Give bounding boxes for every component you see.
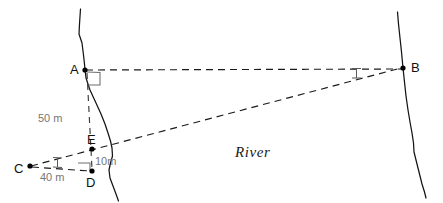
vertex-dot-D [89,168,94,173]
point-label-D: D [86,175,95,190]
river-caption: River [234,144,270,160]
vertex-dot-C [27,163,32,168]
vertex-dot-E [89,146,94,151]
segment-A-B [86,69,401,70]
angle-tick-at-B [352,69,361,79]
point-label-B: B [411,60,420,75]
riverbanks [79,9,426,201]
dimension-label-ED: 10m [95,155,116,167]
right-angle-at-A [87,72,100,85]
left-bank-path [79,9,119,201]
angle-tick-at-C [53,158,62,168]
river-survey-figure: A B C D E 50 m 40 m 10m River [0,0,443,203]
vertex-dot-B [400,65,405,70]
diagram-canvas: A B C D E 50 m 40 m 10m River [0,0,443,203]
vertex-dot-A [82,67,87,72]
point-label-A: A [70,62,79,77]
dimension-label-AE: 50 m [38,112,62,124]
point-label-C: C [14,161,23,176]
dimension-label-CD: 40 m [40,171,64,183]
segment-C-B [31,68,401,166]
point-label-E: E [87,132,96,147]
survey-lines [31,68,401,171]
right-bank-path [398,12,427,198]
right-angle-at-D [78,163,90,171]
